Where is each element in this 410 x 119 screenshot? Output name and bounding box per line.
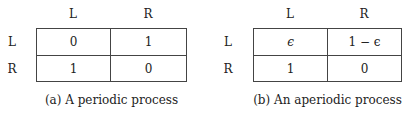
transition-matrix-b: ϵ 1 − ϵ 1 0 — [253, 28, 402, 82]
row-label-l: L — [220, 35, 236, 49]
cell-l-l: ϵ — [254, 35, 327, 49]
cell-l-r: 1 — [111, 35, 186, 49]
cell-r-l: 1 — [254, 62, 327, 76]
row-label-r: R — [220, 62, 236, 76]
column-label-l: L — [280, 7, 300, 21]
caption-a: (a) A periodic process — [36, 93, 187, 107]
cell-l-l: 0 — [37, 35, 110, 49]
row-label-r: R — [4, 62, 20, 76]
transition-matrix-a: 0 1 1 0 — [36, 28, 187, 82]
column-label-r: R — [354, 7, 374, 21]
row-label-l: L — [4, 35, 20, 49]
cell-r-r: 0 — [111, 62, 186, 76]
panel-b-aperiodic: L R L R ϵ 1 − ϵ 1 0 (b) An aperiodic pro… — [205, 0, 410, 119]
cell-r-l: 1 — [37, 62, 110, 76]
cell-l-r: 1 − ϵ — [328, 35, 401, 49]
caption-b: (b) An aperiodic process — [245, 93, 410, 107]
row-divider — [37, 55, 186, 56]
panel-a-periodic: L R L R 0 1 1 0 (a) A periodic process — [0, 0, 205, 119]
column-label-l: L — [63, 7, 83, 21]
column-label-r: R — [138, 7, 158, 21]
cell-r-r: 0 — [328, 62, 401, 76]
